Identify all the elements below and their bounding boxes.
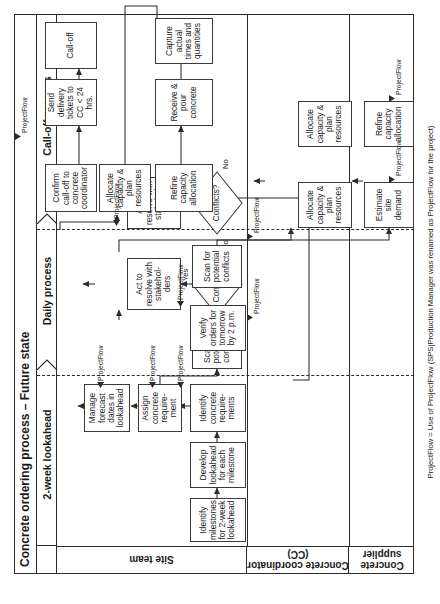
node-capture-actual-times-quantities[interactable]: Send delivery tickets to CC < 24 hrs. bbox=[45, 79, 97, 126]
node-label: Refine capacity allocation bbox=[375, 104, 403, 144]
lane-label-supplier-text: Concretesupplier bbox=[360, 549, 403, 571]
phase-item-daily-text: Daily process bbox=[41, 257, 53, 325]
node-manage-forecast-dates-2[interactable]: Manage forecast dates in lookahead bbox=[84, 384, 130, 432]
annotation-arrow-icon bbox=[149, 381, 156, 388]
node-confirm-call-off[interactable]: Refine capacity allocation bbox=[155, 164, 213, 212]
annotation-arrow-icon bbox=[247, 233, 254, 240]
edge-label-no-daily: No bbox=[221, 159, 230, 169]
diagram-page: ProjectFlow = Use of ProjectFlow (SPS|Pr… bbox=[0, 0, 440, 604]
node-label: Act to resolve with stakehol-ders bbox=[135, 261, 173, 307]
node-label: Develop lookahead for each milestone bbox=[199, 445, 237, 485]
node-assign-concrete-requirement-2[interactable]: Assign concrete require-ment bbox=[138, 384, 182, 432]
annotation-projectflow-b: ProjectFlow bbox=[149, 345, 156, 381]
annotation-projectflow-i: ProjectFlow bbox=[21, 97, 28, 133]
node-label: Call-off bbox=[66, 32, 75, 58]
annotation-projectflow-e: ProjectFlow bbox=[395, 140, 402, 176]
node-label: Verify orders for tomorrow by 2 p.m. bbox=[199, 308, 237, 348]
annotation-projectflow-a: ProjectFlow bbox=[177, 345, 184, 381]
node-allocate-capacity-plan-resources-daily[interactable]: Allocate capacity & plan resources bbox=[298, 101, 352, 147]
annotation-arrow-icon bbox=[177, 300, 184, 307]
diagram-final: ProjectFlow = Use of ProjectFlow (SPS|Pr… bbox=[0, 0, 440, 604]
annotation-arrow-icon bbox=[113, 219, 120, 226]
title-text: Concrete ordering process – Future state bbox=[18, 332, 32, 567]
diagram-body: Concrete ordering process – Future state… bbox=[0, 0, 428, 586]
node-label: Manage forecast dates in lookahead bbox=[88, 387, 126, 429]
node-refine-capacity-allocation[interactable]: Act to resolve with stakehol-ders Confli… bbox=[364, 101, 414, 147]
phase-item-lookahead: 2-week lookahead bbox=[37, 364, 57, 546]
lane-label-cc-text: Concrete coordinator(CC) bbox=[247, 549, 349, 571]
annotation-projectflow-h: ProjectFlow bbox=[395, 59, 402, 95]
node-send-tickets-accounting[interactable]: Call-off bbox=[45, 22, 97, 69]
node-label: Receive & pour concrete bbox=[170, 82, 198, 123]
annotation-arrow-icon bbox=[389, 95, 396, 102]
node-label: Refine capacity allocation bbox=[170, 167, 198, 209]
annotation-projectflow-f: ProjectFlow bbox=[177, 264, 184, 300]
node-verify-orders-daily[interactable]: Verify orders for tomorrow by 2 p.m. bbox=[190, 305, 246, 351]
node-identify-milestones-2week[interactable]: Identify milestones for 2-week lookahead bbox=[190, 498, 246, 542]
node-receive-pour-concrete[interactable]: Allocate capacity & plan resources bbox=[99, 164, 151, 212]
annotation-arrow-icon bbox=[97, 381, 104, 388]
node-allocate-capacity-plan-resources-lookahead[interactable]: Allocate capacity & plan resources bbox=[298, 182, 352, 228]
annotation-projectflow-g: ProjectFlow bbox=[253, 197, 260, 233]
node-label: Allocate capacity & plan resources bbox=[306, 104, 344, 144]
annotation-arrow-icon bbox=[15, 133, 22, 140]
annotation-projectflow-d: ProjectFlow bbox=[253, 278, 260, 314]
node-estimate-site-demand-2[interactable]: Estimate site demand bbox=[364, 182, 414, 228]
node-send-delivery-tickets[interactable]: Confirm call-off to concrete coordinator bbox=[45, 164, 97, 212]
node-label: Identify concrete require-ments bbox=[199, 387, 237, 429]
node-label: Capture actual times and quantities bbox=[165, 21, 203, 61]
plot: Identify milestones for 2-week lookahead… bbox=[57, 14, 414, 546]
node-label: Assign concrete require-ment bbox=[141, 387, 179, 429]
annotation-projectflow-j: ProjectFlow bbox=[113, 183, 120, 219]
node-identify-concrete-requirements-2[interactable]: Identify concrete require-ments bbox=[190, 384, 246, 432]
node-batch-and-deliver[interactable]: Capture actual times and quantities bbox=[155, 18, 213, 64]
lane-label-cc: Concrete coordinator(CC) bbox=[247, 546, 349, 574]
node-label: Scan for potential conflicts bbox=[203, 248, 231, 285]
node-label: Identify milestones for 2-week lookahead bbox=[199, 500, 237, 540]
lane-labels: Site team Concrete coordinator(CC) Concr… bbox=[57, 546, 414, 574]
annotation-arrow-icon bbox=[389, 176, 396, 183]
node-act-resolve-stakeholders-lookahead[interactable]: Act to resolve with stakehol-ders bbox=[127, 258, 181, 310]
node-develop-lookahead-milestone[interactable]: Develop lookahead for each milestone bbox=[190, 442, 246, 488]
lane-label-site: Site team bbox=[57, 546, 247, 574]
node-call-off[interactable]: Receive & pour concrete bbox=[155, 79, 213, 126]
phase-item-lookahead-text: 2-week lookahead bbox=[41, 410, 53, 500]
node-label: Confirm call-off to concrete coordinator bbox=[52, 167, 90, 209]
lane-label-supplier: Concretesupplier bbox=[349, 546, 414, 574]
node-scan-potential-conflicts-daily[interactable]: Scan for potential conflicts bbox=[192, 245, 242, 288]
node-label: Send delivery tickets to CC < 24 hrs. bbox=[47, 82, 94, 123]
node-label: Estimate site demand bbox=[375, 185, 403, 225]
annotation-projectflow-c: ProjectFlow bbox=[97, 345, 104, 381]
annotation-arrow-icon bbox=[177, 381, 184, 388]
node-label: Allocate capacity & plan resources bbox=[106, 167, 144, 209]
node-label: Allocate capacity & plan resources bbox=[306, 185, 344, 225]
phase-item-daily: Daily process bbox=[37, 218, 57, 364]
lane-label-site-text: Site team bbox=[129, 555, 173, 566]
annotation-arrow-icon bbox=[247, 314, 254, 321]
